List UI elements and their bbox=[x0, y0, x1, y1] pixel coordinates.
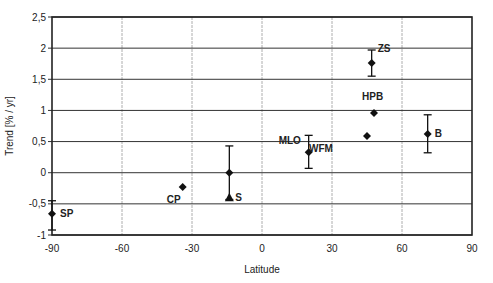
y-tick-label: 1 bbox=[40, 105, 46, 116]
point-label-b: B bbox=[435, 128, 442, 139]
x-tick-label: 30 bbox=[326, 243, 338, 254]
x-tick-label: 60 bbox=[396, 243, 408, 254]
x-tick-label: -60 bbox=[115, 243, 130, 254]
point-label-hpb: HPB bbox=[362, 91, 383, 102]
y-tick-label: 2,5 bbox=[32, 12, 46, 23]
x-axis-label: Latitude bbox=[244, 264, 280, 275]
point-label-wfm: WFM bbox=[309, 143, 333, 154]
point-label-sp: SP bbox=[60, 208, 74, 219]
x-tick-label: -30 bbox=[185, 243, 200, 254]
point-label-s: S bbox=[235, 192, 242, 203]
y-tick-label: 0 bbox=[40, 167, 46, 178]
y-tick-label: 0,5 bbox=[32, 136, 46, 147]
point-label-cp: CP bbox=[167, 194, 181, 205]
y-tick-label: -1 bbox=[37, 230, 46, 241]
x-tick-label: -90 bbox=[45, 243, 60, 254]
point-label-zs: ZS bbox=[378, 43, 391, 54]
diamond-marker bbox=[424, 130, 432, 138]
y-tick-label: -0,5 bbox=[29, 198, 47, 209]
diamond-marker bbox=[363, 132, 371, 140]
trend-vs-latitude-chart: -90-60-300306090-1-0,500,511,522,5Latitu… bbox=[0, 0, 493, 283]
y-axis-label: Trend [% / yr] bbox=[4, 96, 15, 156]
diamond-marker bbox=[48, 210, 56, 218]
y-tick-label: 2 bbox=[40, 43, 46, 54]
y-tick-label: 1,5 bbox=[32, 74, 46, 85]
x-tick-label: 0 bbox=[259, 243, 265, 254]
diamond-marker bbox=[179, 183, 187, 191]
diamond-marker bbox=[225, 169, 233, 177]
triangle-marker bbox=[225, 193, 234, 202]
diamond-marker bbox=[368, 59, 376, 67]
point-label-mlo: MLO bbox=[279, 135, 301, 146]
x-tick-label: 90 bbox=[466, 243, 478, 254]
